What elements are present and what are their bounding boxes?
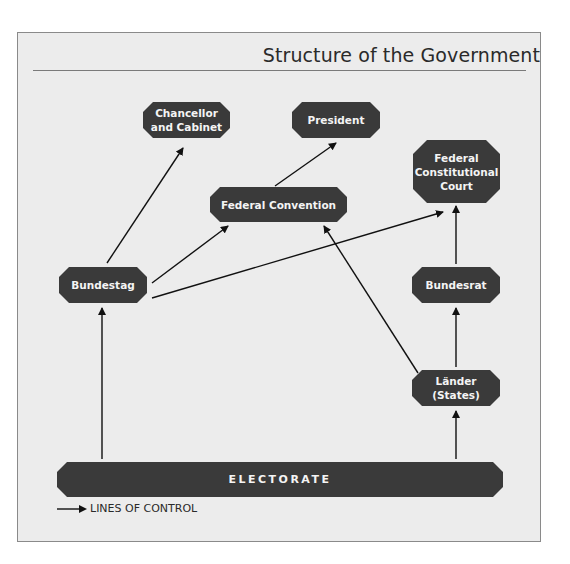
arrow-icon [57, 504, 87, 514]
node-electorate: ELECTORATE [57, 462, 503, 497]
node-federal-convention: Federal Convention [210, 187, 347, 222]
node-chancellor-cabinet: Chancellor and Cabinet [143, 102, 230, 138]
node-constitutional-court: Federal Constitutional Court [413, 140, 500, 203]
node-label: President [308, 113, 365, 127]
node-label: Court [440, 179, 473, 193]
edge-bundestag-convention [152, 226, 228, 283]
node-bundesrat: Bundesrat [412, 267, 500, 303]
legend: LINES OF CONTROL [57, 502, 197, 515]
legend-label: LINES OF CONTROL [90, 502, 197, 515]
edge-bundestag-court [152, 212, 443, 298]
node-label: Länder [435, 374, 476, 388]
node-bundestag: Bundestag [59, 267, 147, 303]
node-label: and Cabinet [151, 120, 222, 134]
node-label: Federal Convention [221, 198, 336, 212]
edge-laender-convention [324, 226, 418, 373]
node-president: President [292, 102, 380, 138]
node-label: Bundestag [71, 278, 134, 292]
node-label: Chancellor [155, 106, 218, 120]
node-label: ELECTORATE [228, 473, 331, 487]
node-label: (States) [432, 388, 480, 402]
node-label: Federal [434, 151, 478, 165]
edge-bundestag-chancellor [107, 148, 183, 263]
edge-convention-president [275, 143, 336, 186]
node-label: Constitutional [415, 165, 499, 179]
node-label: Bundesrat [425, 278, 486, 292]
node-laender: Länder (States) [412, 370, 500, 406]
